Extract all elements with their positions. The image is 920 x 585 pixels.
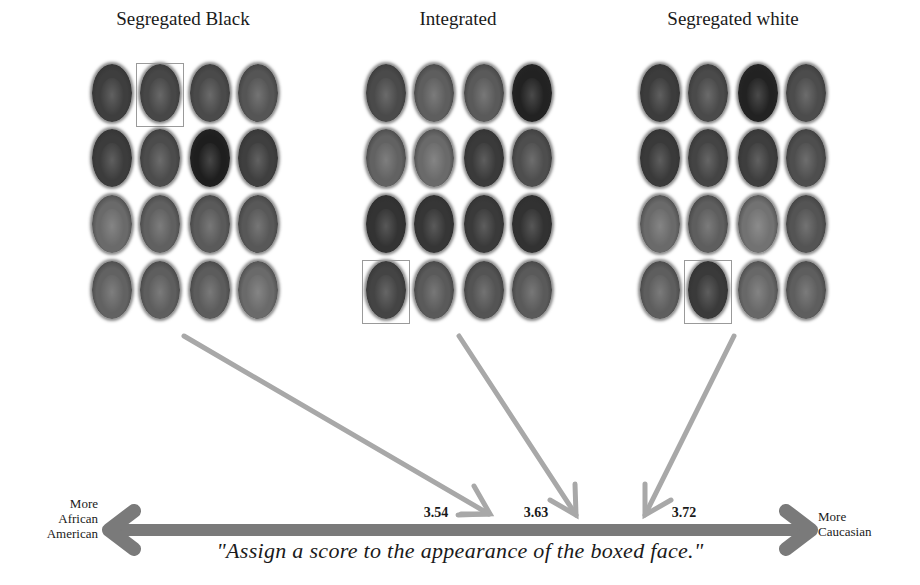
pointer-arrow-segregated-black: [184, 336, 490, 515]
scale-label-line: African: [47, 511, 98, 526]
scale-label-line: Caucasian: [818, 524, 871, 539]
scale-label-line: More: [47, 496, 98, 511]
instruction-caption: "Assign a score to the appearance of the…: [217, 538, 704, 564]
pointer-arrow-segregated-white: [645, 336, 734, 515]
scale-label-line: American: [47, 526, 98, 541]
scale-label-more-caucasian: More Caucasian: [818, 509, 871, 539]
arrows-overlay: [0, 0, 920, 585]
score-value-segregated-black: 3.54: [424, 505, 449, 521]
scale-label-line: More: [818, 509, 871, 524]
scale-label-more-african-american: More African American: [47, 496, 98, 541]
score-value-integrated: 3.63: [524, 505, 549, 521]
score-value-segregated-white: 3.72: [672, 505, 697, 521]
